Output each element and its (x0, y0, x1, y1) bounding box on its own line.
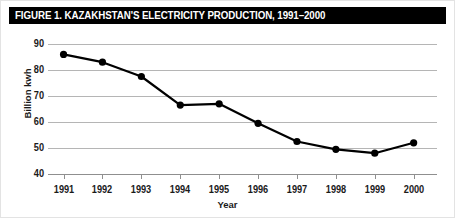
data-point-marker (254, 120, 261, 127)
x-axis-tick (297, 174, 298, 179)
data-point-marker (138, 73, 145, 80)
x-axis-title: Year (0, 199, 455, 210)
figure-electricity-production: FIGURE 1. KAZAKHSTAN'S ELECTRICITY PRODU… (0, 0, 455, 218)
figure-title: FIGURE 1. KAZAKHSTAN'S ELECTRICITY PRODU… (15, 7, 325, 24)
x-axis-tick-label: 1991 (46, 184, 83, 195)
x-axis-tick (141, 174, 142, 179)
x-axis-tick (336, 174, 337, 179)
data-point-marker (410, 139, 417, 146)
x-axis-line (48, 174, 437, 175)
data-point-marker (293, 138, 300, 145)
line-series (48, 44, 437, 174)
x-axis-tick-label: 1996 (240, 184, 277, 195)
x-axis-tick (375, 174, 376, 179)
x-axis-tick (219, 174, 220, 179)
x-axis-tick-label: 1998 (318, 184, 355, 195)
y-axis-tick-label: 40 (20, 168, 44, 179)
x-axis-tick (258, 174, 259, 179)
y-axis-tick-label: 90 (20, 38, 44, 49)
x-axis-tick-label: 1995 (201, 184, 238, 195)
x-axis-tick-label: 1993 (123, 184, 160, 195)
x-axis-tick-label: 2000 (396, 184, 433, 195)
data-point-marker (60, 51, 67, 58)
y-axis-title: Billion kwh (22, 59, 33, 129)
x-axis-tick-label: 1994 (162, 184, 199, 195)
figure-title-bar: FIGURE 1. KAZAKHSTAN'S ELECTRICITY PRODU… (9, 7, 446, 24)
data-point-marker (216, 100, 223, 107)
data-point-marker (332, 146, 339, 153)
series-line (64, 54, 414, 153)
x-axis-tick (102, 174, 103, 179)
data-point-marker (371, 150, 378, 157)
x-axis-tick (64, 174, 65, 179)
x-axis-tick-label: 1999 (357, 184, 394, 195)
data-point-marker (177, 102, 184, 109)
x-axis-tick-label: 1997 (279, 184, 316, 195)
x-axis-tick-label: 1992 (84, 184, 121, 195)
x-axis-tick (180, 174, 181, 179)
data-point-marker (99, 59, 106, 66)
x-axis-tick (414, 174, 415, 179)
y-axis-tick-label: 50 (20, 142, 44, 153)
